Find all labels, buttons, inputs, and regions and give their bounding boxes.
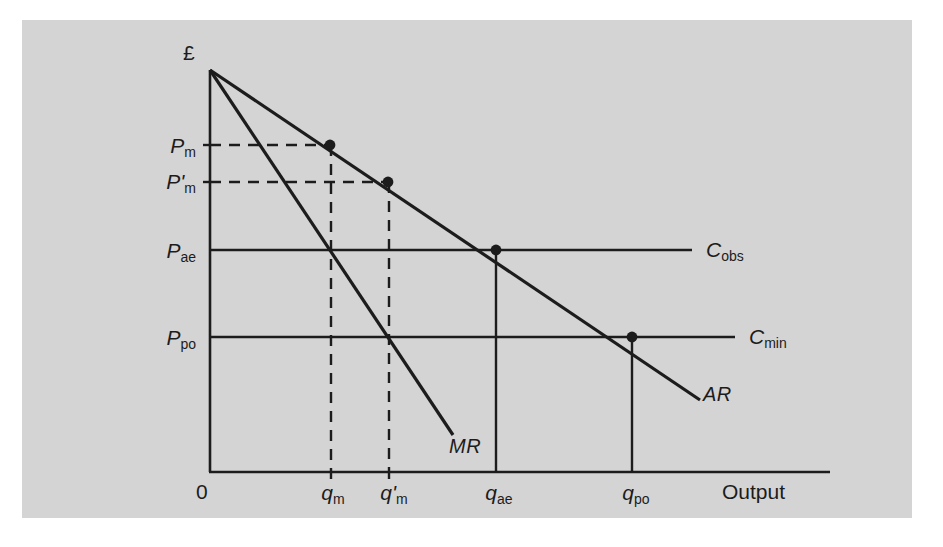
curve-label-cost-observed-subscript: obs — [721, 248, 744, 264]
x-label-qty-productive-optimum-subscript: po — [634, 491, 650, 507]
curve-label-cost-observed: Cobs — [706, 239, 744, 260]
y-label-price-monopoly-regulated-subscript: m — [184, 180, 196, 196]
marker-monopoly-outcome — [325, 140, 336, 151]
marker-allocative-efficiency-outcome — [491, 245, 502, 256]
y-axis-label: £ — [183, 42, 195, 63]
y-label-price-allocative-efficiency-subscript: ae — [180, 249, 196, 265]
average-revenue-curve — [210, 70, 700, 400]
x-label-qty-monopoly: qm — [321, 482, 344, 503]
curve-label-cost-minimum: Cmin — [749, 326, 787, 347]
y-label-price-allocative-efficiency: Pae — [166, 240, 196, 261]
y-label-price-productive-optimum-base: P — [166, 326, 180, 349]
figure-root: £ 0 Output Pm P'm Pae Ppo qm q'm qae qpo… — [0, 0, 943, 547]
y-label-price-allocative-efficiency-base: P — [166, 239, 180, 262]
x-label-qty-productive-optimum: qpo — [622, 482, 649, 503]
revenue-curves-group — [210, 70, 700, 435]
x-label-qty-allocative-efficiency-subscript: ae — [497, 491, 513, 507]
curve-label-average-revenue: AR — [703, 384, 732, 404]
x-label-qty-allocative-efficiency: qae — [485, 482, 512, 503]
x-label-qty-monopoly-subscript: m — [333, 491, 345, 507]
y-label-price-productive-optimum-subscript: po — [180, 336, 196, 352]
curve-label-cost-observed-base: C — [706, 238, 721, 261]
marker-regulated-monopoly-outcome — [383, 177, 394, 188]
x-label-qty-allocative-efficiency-base: q — [485, 481, 497, 504]
y-label-price-monopoly-base: P — [170, 134, 184, 157]
y-label-price-monopoly: Pm — [170, 135, 196, 156]
x-label-qty-productive-optimum-base: q — [622, 481, 634, 504]
curve-label-cost-minimum-subscript: min — [764, 335, 787, 351]
y-label-price-monopoly-subscript: m — [184, 144, 196, 160]
y-label-price-monopoly-regulated: P'm — [166, 171, 196, 192]
origin-label: 0 — [196, 481, 208, 502]
y-label-price-productive-optimum: Ppo — [166, 327, 196, 348]
x-axis-label: Output — [722, 481, 785, 502]
curve-label-marginal-revenue: MR — [449, 436, 481, 456]
curve-label-cost-minimum-base: C — [749, 325, 764, 348]
x-label-qty-monopoly-regulated-base: q — [380, 481, 392, 504]
x-label-qty-monopoly-regulated-subscript: m — [396, 491, 408, 507]
marker-productive-optimum-outcome — [627, 332, 638, 343]
x-label-qty-monopoly-regulated: q'm — [380, 482, 407, 503]
economics-diagram-svg — [0, 0, 943, 547]
cost-lines-group — [210, 250, 735, 337]
y-label-price-monopoly-regulated-base: P — [166, 170, 180, 193]
x-label-qty-monopoly-base: q — [321, 481, 333, 504]
guide-lines-group — [210, 145, 632, 472]
